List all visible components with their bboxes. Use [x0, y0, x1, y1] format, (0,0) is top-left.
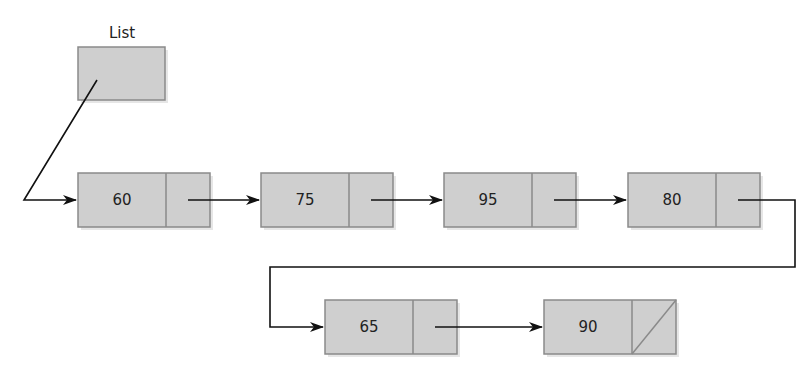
list-node: 65: [325, 300, 460, 357]
linked-list-diagram: List 607595806590: [0, 0, 811, 375]
node-value: 95: [478, 191, 497, 209]
node-value: 90: [578, 318, 597, 336]
list-node: 80: [628, 173, 763, 230]
list-node: 75: [261, 173, 396, 230]
list-node: 60: [78, 173, 213, 230]
node-value: 60: [112, 191, 131, 209]
node-value: 80: [662, 191, 681, 209]
head-label: List: [109, 24, 135, 42]
list-node: 90: [544, 300, 679, 357]
list-node: 95: [444, 173, 579, 230]
node-value: 65: [359, 318, 378, 336]
head-pointer-box: [78, 47, 165, 100]
node-value: 75: [295, 191, 314, 209]
node-box: [544, 300, 676, 354]
